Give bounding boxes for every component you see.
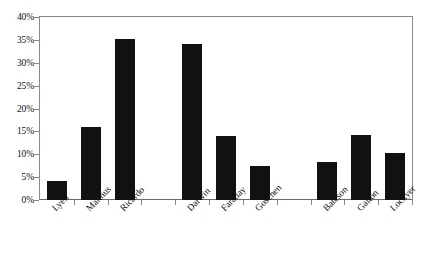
x-axis-tick [243,200,244,205]
bar [351,135,371,200]
x-axis-tick [74,200,75,205]
x-axis-tick [141,200,142,205]
bar-slot [277,17,311,200]
x-axis-tick [108,200,109,205]
bar-slot [175,17,209,200]
x-axis-tick [344,200,345,205]
y-axis-labels: 0%5%10%15%20%25%30%35%40% [0,0,34,261]
y-axis-tick-label: 30% [0,58,34,68]
x-axis-tick [277,200,278,205]
x-axis-tick [378,200,379,205]
bar-slot [311,17,345,200]
bar-slot [344,17,378,200]
y-axis-tick-label: 40% [0,12,34,22]
y-axis-tick-label: 5% [0,172,34,182]
bars-container [40,17,412,200]
y-axis-tick [34,200,39,201]
x-axis-tick [175,200,176,205]
bar-slot [141,17,175,200]
bar-slot [74,17,108,200]
y-axis-tick-label: 10% [0,149,34,159]
bar-slot [40,17,74,200]
y-axis-tick-label: 35% [0,35,34,45]
y-axis-tick-label: 15% [0,126,34,136]
bar-chart: 0%5%10%15%20%25%30%35%40% LyellMalthusRi… [0,0,422,261]
bar-slot [243,17,277,200]
y-axis-tick-label: 20% [0,104,34,114]
y-axis-tick-label: 25% [0,81,34,91]
y-axis-tick-label: 0% [0,195,34,205]
bar [81,127,101,200]
bar-slot [209,17,243,200]
bar [115,39,135,200]
x-axis-tick [209,200,210,205]
x-axis-tick [412,200,413,205]
bar-slot [108,17,142,200]
x-axis-labels: LyellMalthusRicardoDarwinFaradayGoschenB… [40,206,412,261]
x-axis-tick [311,200,312,205]
bar-slot [378,17,412,200]
bar [182,44,202,200]
